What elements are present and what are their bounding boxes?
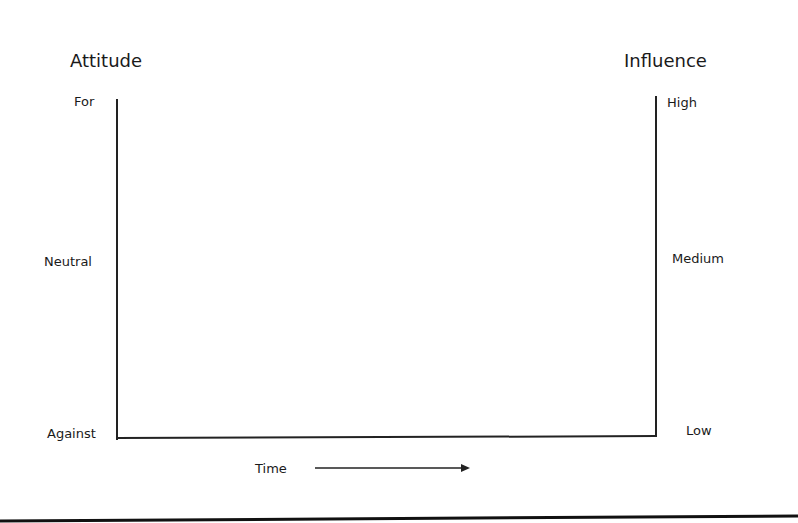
time-arrow-icon [0,0,798,523]
